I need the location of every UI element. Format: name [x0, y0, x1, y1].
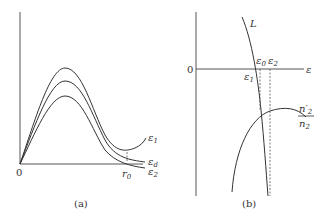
a-caption: (a) [74, 198, 88, 209]
b-eps0-label: ε0 [256, 55, 266, 68]
curve-L [242, 17, 268, 196]
curve-ratio [232, 108, 306, 192]
b-origin-label: 0 [187, 64, 193, 75]
b-L-label: L [249, 18, 257, 29]
a-r0-label: r0 [122, 168, 132, 181]
curve-epsd [20, 81, 145, 164]
b-x-axis-label: ε [306, 64, 311, 75]
b-eps1-label: ε1 [244, 71, 254, 84]
curve-eps2 [20, 96, 145, 168]
figure: 0 r0 ε1 εd ε2 (a) 0 ε L ε0 ε2 ε1 n′2 n2 … [0, 0, 325, 221]
a-origin-label: 0 [16, 167, 22, 178]
b-eps2-label: ε2 [268, 55, 278, 68]
panel-a: 0 r0 ε1 εd ε2 (a) [16, 12, 158, 209]
panel-b: 0 ε L ε0 ε2 ε1 n′2 n2 (b) [187, 12, 314, 209]
b-caption: (b) [242, 198, 256, 209]
a-eps1-label: ε1 [148, 132, 158, 145]
svg-text:n2: n2 [299, 118, 310, 131]
svg-text:n′2: n′2 [299, 103, 313, 116]
